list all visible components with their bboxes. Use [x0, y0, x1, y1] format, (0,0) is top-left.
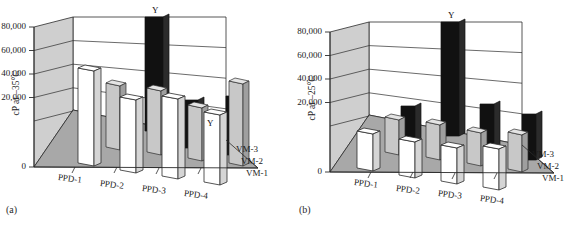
bar-b-ppd2-vm3	[441, 19, 465, 136]
bar-a-ppd3-vm1	[162, 93, 185, 179]
z-tick-label-b-vm2: VM-2	[537, 161, 559, 171]
chart-panel-a: 80,000 60,000 40,000 20,000 0 cP at –35°…	[0, 0, 293, 229]
bar-a-ppd2-vm1	[120, 94, 143, 173]
bar-b-ppd4-vm2	[508, 129, 528, 172]
y-tick-label-a-0: 0	[0, 161, 26, 171]
z-tick-label-a-vm2: VM-2	[241, 156, 263, 166]
bar-b-ppd4-vm1	[483, 143, 506, 190]
y-axis-title-b: cP at –25°C	[307, 58, 317, 138]
z-tick-label-b-vm3: VM-3	[532, 149, 554, 159]
y-axis-ticks	[29, 27, 34, 167]
chart-a-canvas	[0, 0, 293, 229]
bar-a-ppd1-vm1	[78, 65, 101, 166]
y-tick-label-b-80000: 80,000	[288, 26, 322, 36]
bar-b-ppd2-vm1	[399, 136, 422, 178]
panel-label-b: (b)	[299, 204, 311, 215]
bar-b-ppd1-vm1	[357, 128, 380, 171]
y-axis-ticks	[325, 32, 330, 172]
y-tick-label-b-0: 0	[288, 166, 322, 176]
panel-label-a: (a)	[6, 204, 17, 215]
annotation-a-y-ppd4: Y	[207, 118, 214, 128]
figure-two-3d-bar-charts: 80,000 60,000 40,000 20,000 0 cP at –35°…	[0, 0, 587, 229]
chart-panel-b: 80,000 60,000 40,000 20,000 0 cP at –25°…	[293, 0, 586, 229]
z-tick-label-a-vm3: VM-3	[236, 144, 258, 154]
annotation-b-y-offscale: Y	[448, 10, 455, 20]
y-tick-label-a-80000: 80,000	[0, 21, 26, 31]
z-tick-label-b-vm1: VM-1	[542, 173, 564, 183]
z-tick-label-a-vm1: VM-1	[246, 168, 268, 178]
y-axis-title-a: cP at –35°C	[11, 53, 21, 133]
annotation-a-y-offscale: Y	[152, 5, 159, 15]
